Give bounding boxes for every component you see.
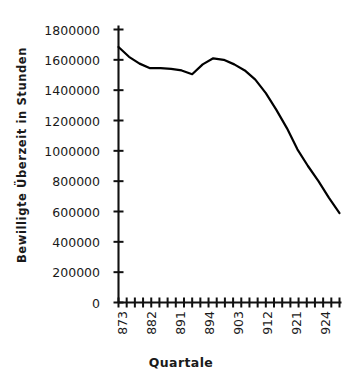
x-axis-tick-label: 891 [173, 311, 188, 335]
x-axis-tick-label: 924 [318, 311, 333, 335]
chart-container: Bewilligte Überzeit in Stunden 180000016… [0, 0, 362, 387]
x-axis-title: Quartale [0, 355, 362, 370]
x-axis-tick-labels: 873882891894903912921924 [0, 0, 362, 387]
x-axis-tick-label: 882 [144, 311, 159, 335]
x-axis-tick-label: 873 [115, 311, 130, 335]
x-axis-tick-label: 921 [289, 311, 304, 335]
x-axis-tick-label: 894 [202, 311, 217, 335]
x-axis-tick-label: 903 [231, 311, 246, 335]
x-axis-tick-label: 912 [260, 311, 275, 335]
